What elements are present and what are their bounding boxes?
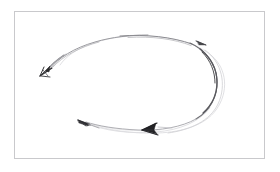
- image-frame-border: [14, 11, 265, 159]
- figure-canvas: [0, 0, 280, 172]
